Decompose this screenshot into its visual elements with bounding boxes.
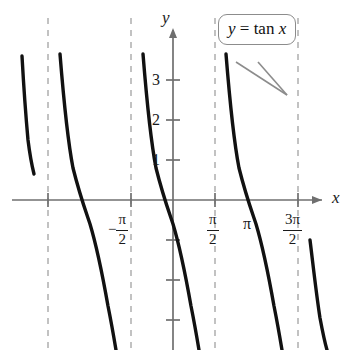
ytick-label-3: 3	[146, 72, 160, 88]
y-axis-arrowhead	[169, 28, 177, 38]
xtick-label-3pi-over-2: 3π 2	[283, 212, 302, 248]
y-axis-label: y	[162, 9, 170, 26]
fraction-pi-over-2: π 2	[116, 212, 128, 248]
branch-right-partial	[310, 240, 327, 350]
xtick-label-pi-over-2: π 2	[207, 212, 219, 248]
fraction-numerator: π	[207, 212, 219, 228]
callout-tan: tan	[254, 19, 275, 38]
branch-minus-pi	[60, 54, 116, 350]
branch-left-partial	[22, 56, 34, 174]
function-callout: y = tan x	[218, 14, 296, 45]
fraction-denominator: 2	[207, 232, 219, 248]
tangent-curve-group	[22, 54, 327, 350]
callout-text: y = tan x	[228, 19, 286, 38]
fraction-pi-over-2: π 2	[207, 212, 219, 248]
x-axis-label: x	[332, 189, 340, 206]
xtick-label-pi: π	[243, 216, 251, 232]
fraction-denominator: 2	[283, 232, 302, 248]
fraction-numerator: 3π	[283, 212, 302, 228]
fraction-numerator: π	[116, 212, 128, 228]
callout-y-symbol: y	[228, 19, 236, 38]
x-axis-arrowhead	[312, 196, 322, 204]
fraction-3pi-over-2: 3π 2	[283, 212, 302, 248]
xtick-label-minus-pi-over-2: − π 2	[108, 212, 128, 248]
fraction-denominator: 2	[116, 232, 128, 248]
axes-group	[12, 30, 322, 350]
minus-sign: −	[108, 222, 116, 237]
callout-x-symbol: x	[279, 19, 287, 38]
figure-canvas: y = tan x y x 3 2 1 − π 2 π 2 π 3π 2	[0, 0, 356, 350]
tangent-graph-svg	[0, 0, 356, 350]
callout-pointer	[236, 62, 287, 95]
branch-pi	[226, 54, 282, 350]
ytick-label-2: 2	[146, 112, 160, 128]
callout-equals: =	[240, 19, 250, 38]
ytick-label-1: 1	[146, 152, 160, 168]
branch-zero	[143, 54, 199, 350]
